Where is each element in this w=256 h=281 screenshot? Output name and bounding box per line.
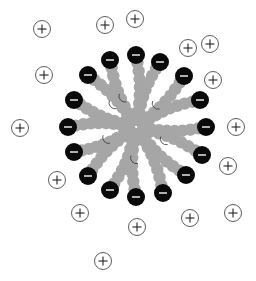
head-group: [127, 46, 145, 64]
micelle-diagram: [0, 0, 256, 281]
counterion: [202, 36, 219, 53]
head-group: [175, 67, 193, 85]
counterion: [36, 67, 53, 84]
head-group: [154, 184, 172, 202]
head-group: [79, 167, 97, 185]
counterion: [129, 219, 146, 236]
tail-bead: [125, 115, 137, 127]
counterion: [95, 253, 112, 270]
counterion: [205, 72, 222, 89]
counterion: [72, 205, 89, 222]
head-group: [59, 118, 77, 136]
counterion: [180, 40, 197, 57]
counterion: [182, 210, 199, 227]
head-group: [65, 91, 83, 109]
counterion: [127, 11, 144, 28]
counterion: [225, 205, 242, 222]
head-group: [79, 66, 97, 84]
counterion: [228, 119, 245, 136]
head-group: [151, 53, 169, 71]
head-group: [101, 181, 119, 199]
counterion: [49, 172, 66, 189]
counterion: [12, 120, 29, 137]
counterion: [34, 21, 51, 38]
head-group: [193, 146, 211, 164]
head-group: [101, 51, 119, 69]
head-group: [197, 118, 215, 136]
counterion: [97, 17, 114, 34]
counterion: [220, 158, 237, 175]
head-group: [65, 143, 83, 161]
head-group: [177, 166, 195, 184]
head-group: [127, 188, 145, 206]
head-group: [191, 91, 209, 109]
